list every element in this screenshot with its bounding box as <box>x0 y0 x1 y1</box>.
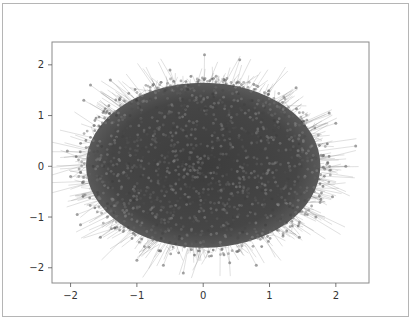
y-axis: −2−1012 <box>29 59 52 273</box>
y-tick-label: −2 <box>29 262 44 273</box>
x-tick-label: 1 <box>266 290 272 301</box>
scatter-chart: −2−1012 −2−1012 <box>0 0 416 328</box>
y-tick-label: 1 <box>38 110 44 121</box>
x-tick-label: 2 <box>333 290 339 301</box>
x-tick-label: −1 <box>130 290 145 301</box>
x-tick-label: 0 <box>200 290 206 301</box>
y-tick-label: 2 <box>38 59 44 70</box>
y-tick-label: −1 <box>29 212 44 223</box>
y-tick-label: 0 <box>38 161 44 172</box>
x-axis: −2−1012 <box>63 283 339 301</box>
x-tick-label: −2 <box>63 290 78 301</box>
